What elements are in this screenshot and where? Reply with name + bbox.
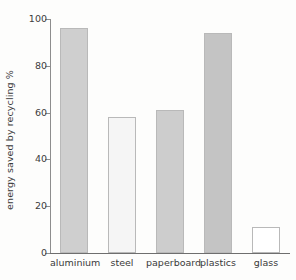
y-axis-line (50, 19, 51, 253)
bar-chart: energy saved by recycling % 020406080100… (0, 0, 296, 280)
y-axis-title: energy saved by recycling % (0, 0, 18, 280)
y-tick-label: 80 (35, 60, 47, 71)
x-axis-line (50, 253, 290, 254)
y-tick-label: 0 (41, 247, 47, 258)
plot-area: 020406080100 aluminiumsteelpaperboardpla… (50, 19, 290, 253)
y-tick-label: 40 (35, 153, 47, 164)
x-label-glass: glass (242, 257, 290, 268)
x-label-paperboard: paperboard (146, 257, 194, 268)
bar-paperboard (156, 110, 184, 253)
x-label-plastics: plastics (194, 257, 242, 268)
x-label-aluminium: aluminium (50, 257, 98, 268)
y-tick-label: 20 (35, 200, 47, 211)
bar-glass (252, 227, 280, 253)
x-label-steel: steel (98, 257, 146, 268)
y-tick-label: 60 (35, 107, 47, 118)
y-tick-label: 100 (29, 13, 47, 24)
bar-aluminium (60, 28, 88, 253)
bar-steel (108, 117, 136, 253)
bar-plastics (204, 33, 232, 253)
